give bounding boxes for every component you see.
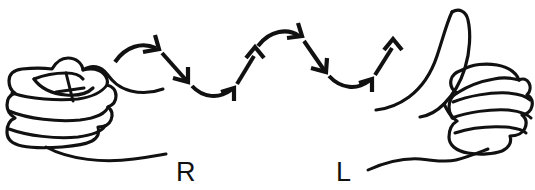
right-hand-label: L: [336, 157, 351, 187]
figure-canvas: R: [0, 0, 535, 190]
gesture-diagram: R: [0, 0, 535, 190]
left-hand-label: R: [176, 157, 196, 187]
